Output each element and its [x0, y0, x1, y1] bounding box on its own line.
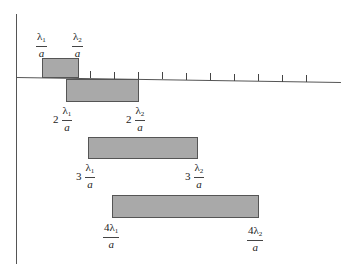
axis-tick: [306, 75, 307, 82]
order-4-end-label: 4λ2 a: [247, 224, 263, 254]
order-3-band: [88, 137, 198, 159]
order-1-end-label: λ2 a: [72, 30, 83, 60]
order-1-start-label: λ1 a: [36, 30, 47, 60]
order-3-start-label: 3 λ1 a: [76, 161, 95, 191]
axis-tick: [186, 73, 187, 80]
axis-tick: [114, 72, 115, 79]
axis-tick: [138, 72, 139, 79]
order-2-start-label: 2 λ1 a: [53, 104, 72, 134]
order-3-end-label: 3 λ2 a: [185, 161, 204, 191]
order-4-band: [112, 195, 259, 218]
order-4-start-label: 4λ1 a: [103, 221, 119, 251]
axis-tick: [258, 74, 259, 81]
order-2-band: [66, 79, 139, 102]
order-1-band: [42, 58, 79, 78]
axis-tick: [162, 72, 163, 79]
axis-tick: [210, 73, 211, 80]
order-2-end-label: 2 λ2 a: [126, 104, 145, 134]
axis-tick: [90, 71, 91, 78]
axis-tick: [234, 74, 235, 81]
diagram-canvas: λ1 a λ2 a 2 λ1 a 2 λ2 a 3 λ1 a 3: [0, 0, 357, 274]
vertical-axis: [16, 14, 17, 264]
axis-tick: [282, 75, 283, 82]
